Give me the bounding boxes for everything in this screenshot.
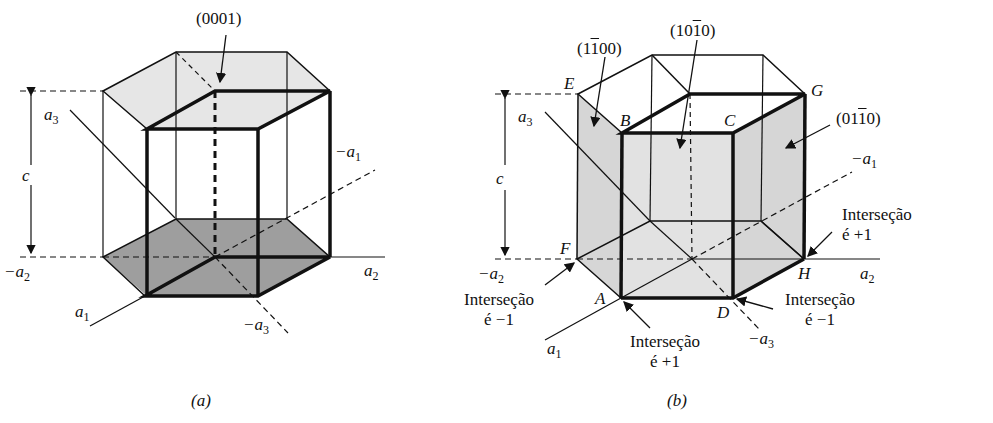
axis-label-a2: a2 [364,262,379,282]
plane-label-01-1bar-0: (0110) [836,110,881,127]
panel-b-caption: (b) [667,392,687,409]
axis-label-a3: a3 [44,106,59,126]
axis-label-a3-b: a3 [518,108,533,128]
axis-label-minus-a3-b: −a3 [748,330,774,350]
plane-label-0001: (0001) [196,10,241,27]
dimension-label-c: c [22,167,30,184]
annotation-a-intersection: Interseçãoé +1 [615,332,715,372]
axis-label-minus-a3: −a3 [243,316,269,336]
plane-label-1-1bar-00: (1100) [577,40,622,57]
vertex-label-g: G [811,82,823,99]
panel-a-figure [20,35,385,333]
axis-label-minus-a2-b: −a2 [478,265,504,285]
vertex-label-d: D [717,304,729,321]
axis-label-minus-a2: −a2 [4,263,30,283]
axis-label-minus-a1: −a1 [335,143,361,163]
vertex-label-h: H [798,265,810,282]
plane-label-10-1bar-0: (1010) [670,22,715,39]
vertex-label-c: C [724,112,735,129]
annotation-h-intersection: Interseçãoé +1 [842,205,912,245]
panel-a-caption: (a) [191,392,211,409]
axis-label-a2-b: a2 [860,265,875,285]
axis-label-minus-a1-b: −a1 [851,150,877,170]
annotation-d-intersection: Interseçãoé −1 [770,290,870,330]
vertex-label-f: F [560,240,570,257]
vertex-label-b: B [620,112,630,129]
axis-label-a1: a1 [75,303,90,323]
vertex-label-a: A [595,290,605,307]
axis-label-a1-b: a1 [547,340,562,360]
dimension-label-c-b: c [496,170,504,187]
annotation-f-intersection: Interseçãoé −1 [449,290,549,330]
vertex-label-e: E [564,75,574,92]
